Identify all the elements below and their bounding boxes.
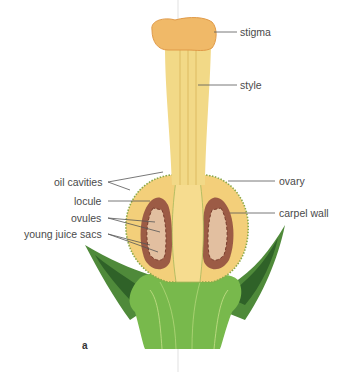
panel-label: a: [82, 340, 88, 351]
label-carpel-wall: carpel wall: [279, 207, 329, 219]
label-ovary: ovary: [279, 175, 305, 187]
diagram-canvas: stigma style oil cavities locule ovules …: [0, 0, 351, 372]
label-style: style: [240, 79, 262, 91]
label-stigma: stigma: [240, 26, 271, 38]
label-young-juice-sacs: young juice sacs: [24, 228, 102, 240]
label-ovules: ovules: [71, 212, 101, 224]
receptacle: [130, 274, 242, 349]
label-oil-cavities: oil cavities: [54, 176, 102, 188]
label-locule: locule: [74, 195, 101, 207]
stigma: [152, 18, 216, 51]
